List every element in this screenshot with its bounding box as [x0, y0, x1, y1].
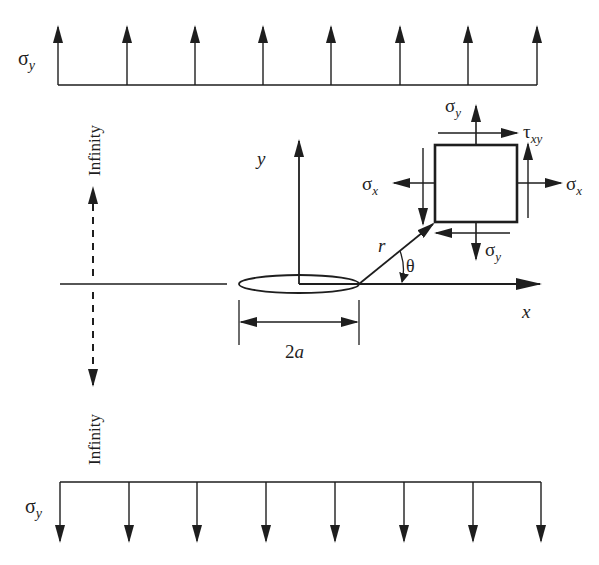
theta-arc-icon [400, 251, 403, 282]
stress-element-box [435, 145, 517, 222]
tau-xy-label: τxy [523, 121, 542, 146]
coordinate-axes: y x [255, 141, 540, 322]
sigma-x-right-label: σx [566, 173, 582, 198]
stress-element: σy τxy σx σx σy [362, 95, 582, 264]
y-axis-label: y [255, 148, 266, 169]
infinity-bottom-label: Infinity [85, 414, 104, 465]
infinity-indicator: Infinity Infinity [85, 125, 104, 465]
sigma-x-left-label: σx [362, 173, 378, 198]
bottom-load-arrows [60, 482, 541, 541]
crack-diagram: σy σy Infinity Infinity y x [0, 0, 599, 565]
r-label: r [378, 235, 386, 256]
x-axis-label: x [521, 301, 531, 322]
bottom-load-group: σy [25, 482, 541, 541]
top-load-label: σy [18, 47, 36, 73]
crack-length-dimension: 2a [239, 300, 359, 362]
top-load-arrows [58, 27, 537, 85]
sigma-y-top-label: σy [445, 95, 461, 120]
infinity-top-label: Infinity [85, 125, 104, 176]
crack-length-label: 2a [285, 341, 304, 362]
sigma-y-bottom-label: σy [485, 239, 501, 264]
r-vector-arrow [359, 224, 433, 284]
theta-label: θ [406, 256, 415, 276]
bottom-load-label: σy [25, 495, 43, 521]
top-load-group: σy [18, 27, 537, 85]
polar-coordinates: r θ [359, 224, 433, 284]
